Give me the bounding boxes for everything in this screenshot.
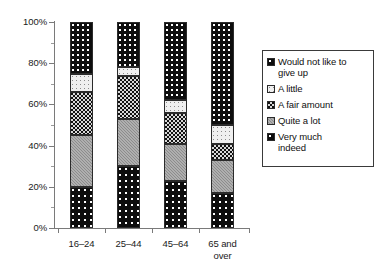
- x-axis-tick-label: 16–24: [56, 238, 107, 250]
- x-axis-tick-label: 65 and over: [197, 238, 248, 261]
- bar-segment: [211, 160, 234, 193]
- y-axis-tick: [49, 63, 54, 64]
- legend-swatch-icon: [267, 133, 275, 141]
- bar-segment: [211, 193, 234, 228]
- x-axis-tick: [249, 229, 250, 233]
- legend-swatch-icon: [267, 117, 275, 125]
- y-axis-tick: [49, 187, 54, 188]
- stacked-bar-chart: 0%20%40%60%80%100% 16–2425–4445–6465 and…: [0, 0, 381, 272]
- bar-segment: [117, 22, 140, 67]
- bar-segment: [70, 74, 93, 93]
- bar-segment: [164, 100, 187, 112]
- bar-segment: [117, 76, 140, 119]
- y-axis-tick-label: 20%: [0, 182, 47, 192]
- legend-label: Quite a lot: [278, 115, 320, 126]
- legend-item: Very much indeed: [267, 131, 369, 153]
- y-axis-tick: [49, 146, 54, 147]
- bar-segment: [70, 22, 93, 74]
- bar-stack: [117, 22, 140, 228]
- bar-segment: [70, 135, 93, 187]
- legend-label: A little: [278, 83, 303, 94]
- x-axis-tick: [199, 229, 200, 233]
- legend-swatch-icon: [267, 101, 275, 109]
- legend-swatch-icon: [267, 85, 275, 93]
- bar-segment: [211, 22, 234, 125]
- legend-item: A fair amount: [267, 99, 369, 110]
- y-axis-minor-tick: [51, 125, 54, 126]
- y-axis-tick-label: 100%: [0, 17, 47, 27]
- y-axis-minor-tick: [51, 166, 54, 167]
- legend-item: Quite a lot: [267, 115, 369, 126]
- bar-segment: [164, 22, 187, 100]
- x-axis-tick: [152, 229, 153, 233]
- y-axis-tick-label: 60%: [0, 99, 47, 109]
- bar-segment: [164, 181, 187, 228]
- y-axis-minor-tick: [51, 207, 54, 208]
- y-axis-labels: 0%20%40%60%80%100%: [0, 0, 47, 272]
- bar-segment: [70, 92, 93, 135]
- bar-segment: [164, 113, 187, 144]
- legend-label: Very much indeed: [278, 131, 322, 153]
- y-axis-line: [54, 21, 55, 229]
- legend-label: Would not like to give up: [278, 56, 346, 78]
- y-axis-tick: [49, 104, 54, 105]
- y-axis-tick-label: 40%: [0, 141, 47, 151]
- x-axis-tick-label: 25–44: [103, 238, 154, 250]
- bar-segment: [117, 119, 140, 166]
- bar-segment: [164, 144, 187, 181]
- bar-segment: [117, 67, 140, 75]
- bar-segment: [117, 166, 140, 228]
- bar-stack: [164, 22, 187, 228]
- y-axis-tick: [49, 22, 54, 23]
- x-axis-tick-label: 45–64: [150, 238, 201, 250]
- bar-stack: [211, 22, 234, 228]
- legend-label: A fair amount: [278, 99, 333, 110]
- x-axis-tick: [105, 229, 106, 233]
- legend-item: Would not like to give up: [267, 56, 369, 78]
- legend-item: A little: [267, 83, 369, 94]
- y-axis-minor-tick: [51, 43, 54, 44]
- legend-swatch-icon: [267, 58, 275, 66]
- bar-segment: [70, 187, 93, 228]
- bar-segment: [211, 144, 234, 160]
- bar-stack: [70, 22, 93, 228]
- y-axis-minor-tick: [51, 84, 54, 85]
- x-axis-tick: [58, 229, 59, 233]
- y-axis-tick-label: 0%: [0, 223, 47, 233]
- y-axis-tick-label: 80%: [0, 58, 47, 68]
- chart-legend: Would not like to give upA littleA fair …: [262, 50, 374, 167]
- bar-segment: [211, 125, 234, 144]
